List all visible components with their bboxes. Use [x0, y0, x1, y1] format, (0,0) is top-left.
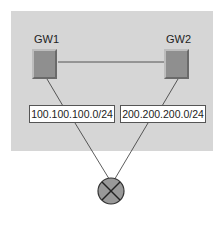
gw1-device[interactable] — [32, 49, 57, 79]
gw2-subnet2-link — [162, 79, 178, 106]
router-icon[interactable] — [96, 176, 126, 206]
subnet-1-label: 100.100.100.0/24 — [29, 105, 115, 123]
subnet-2-label: 200.200.200.0/24 — [120, 105, 206, 123]
subnet1-router-link — [75, 123, 111, 182]
gw1-subnet1-link — [47, 79, 63, 106]
gw2-label: GW2 — [166, 33, 191, 45]
gw2-device[interactable] — [164, 49, 189, 79]
gw1-label: GW1 — [34, 33, 59, 45]
subnet2-router-link — [113, 123, 148, 182]
